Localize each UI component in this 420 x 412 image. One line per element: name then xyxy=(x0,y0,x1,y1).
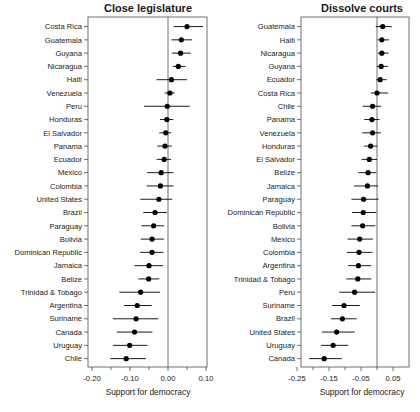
forest-row: Argentina xyxy=(262,261,371,270)
forest-row: Argentina xyxy=(49,301,151,310)
point-estimate xyxy=(334,329,339,334)
forest-row: Ecuador xyxy=(54,155,171,164)
forest-row: Brazil xyxy=(63,208,167,217)
point-estimate xyxy=(361,210,366,215)
forest-row: Dominican Republic xyxy=(14,248,163,257)
forest-row: United States xyxy=(36,195,172,204)
forest-row: Uruguay xyxy=(53,341,147,350)
point-estimate xyxy=(322,356,327,361)
point-estimate xyxy=(176,64,181,69)
category-label: Jamaica xyxy=(54,261,83,270)
x-axis-title: Support for democracy xyxy=(106,387,192,397)
forest-row: Guyana xyxy=(55,49,190,58)
x-tick-label: 0.10 xyxy=(199,374,214,383)
point-estimate xyxy=(149,250,154,255)
point-estimate xyxy=(152,210,157,215)
category-label: Peru xyxy=(279,288,295,297)
category-label: Ecuador xyxy=(54,155,83,164)
plot-frame xyxy=(88,17,207,367)
point-estimate xyxy=(146,263,151,268)
point-estimate xyxy=(365,170,370,175)
forest-row: Nicaragua xyxy=(260,49,388,58)
forest-row: Mexico xyxy=(271,235,373,244)
category-label: Nicaragua xyxy=(47,62,82,71)
forest-row: Canada xyxy=(268,354,341,363)
point-estimate xyxy=(178,51,183,56)
category-label: Dominican Republic xyxy=(14,248,82,257)
point-estimate xyxy=(374,90,379,95)
category-label: United States xyxy=(36,195,82,204)
point-estimate xyxy=(379,64,384,69)
category-label: Chile xyxy=(278,102,295,111)
category-label: Guatemala xyxy=(45,36,83,45)
point-estimate xyxy=(124,356,129,361)
forest-row: Panama xyxy=(54,142,172,151)
category-label: Suriname xyxy=(50,314,83,323)
point-estimate xyxy=(367,157,372,162)
category-label: Brazil xyxy=(63,208,82,217)
point-estimate xyxy=(341,303,346,308)
point-estimate xyxy=(379,51,384,56)
point-estimate xyxy=(368,144,373,149)
category-label: Guyana xyxy=(268,62,295,71)
point-estimate xyxy=(360,223,365,228)
category-label: El Salvador xyxy=(43,129,82,138)
category-label: Canada xyxy=(55,328,82,337)
x-tick-label: 0.05 xyxy=(386,374,401,383)
category-label: Guyana xyxy=(55,49,82,58)
category-label: Mexico xyxy=(271,235,295,244)
category-label: Costa Rica xyxy=(45,22,83,31)
category-label: Ecuador xyxy=(267,75,296,84)
category-label: Honduras xyxy=(262,142,295,151)
category-label: Colombia xyxy=(50,182,83,191)
point-estimate xyxy=(135,303,140,308)
point-estimate xyxy=(378,77,383,82)
forest-row: Trinidad & Tobago xyxy=(234,275,371,284)
forest-row: Peru xyxy=(279,288,375,297)
category-label: Trinidad & Tobago xyxy=(21,288,82,297)
forest-row: Nicaragua xyxy=(47,62,185,71)
point-estimate xyxy=(133,316,138,321)
category-label: Peru xyxy=(66,102,82,111)
category-label: Colombia xyxy=(263,248,296,257)
forest-row: Colombia xyxy=(50,182,173,191)
forest-row: Brazil xyxy=(276,314,357,323)
category-label: El Salvador xyxy=(256,155,295,164)
x-tick-label: -0.05 xyxy=(352,374,369,383)
forest-row: Bolivia xyxy=(60,235,164,244)
category-label: Uruguay xyxy=(53,341,82,350)
point-estimate xyxy=(159,170,164,175)
point-estimate xyxy=(352,290,357,295)
forest-row: Dominican Republic xyxy=(227,208,376,217)
forest-row: Suriname xyxy=(50,314,159,323)
category-label: Panama xyxy=(54,142,83,151)
point-estimate xyxy=(164,117,169,122)
category-label: Paraguay xyxy=(262,195,295,204)
forest-row: Jamaica xyxy=(267,182,378,191)
category-label: Uruguay xyxy=(266,341,295,350)
category-label: Paraguay xyxy=(49,222,82,231)
forest-row: Venezuela xyxy=(260,129,381,138)
forest-row: United States xyxy=(249,328,354,337)
category-label: Bolivia xyxy=(273,222,296,231)
forest-row: Honduras xyxy=(49,115,173,124)
x-tick-label: -0.15 xyxy=(320,374,337,383)
point-estimate xyxy=(158,183,163,188)
x-tick-label: -0.25 xyxy=(288,374,305,383)
point-estimate xyxy=(369,117,374,122)
forest-row: Venezuela xyxy=(47,89,175,98)
point-estimate xyxy=(167,90,172,95)
category-label: Mexico xyxy=(58,168,82,177)
forest-row: Suriname xyxy=(263,301,360,310)
category-label: Guatemala xyxy=(258,22,296,31)
point-estimate xyxy=(163,130,168,135)
category-label: Chile xyxy=(65,354,82,363)
panel-dissolve-courts: Dissolve courtsGuatemalaHaitiNicaraguaGu… xyxy=(227,2,409,397)
category-label: Bolivia xyxy=(60,235,83,244)
point-estimate xyxy=(127,343,132,348)
point-estimate xyxy=(146,276,151,281)
category-label: Trinidad & Tobago xyxy=(234,275,295,284)
forest-row: El Salvador xyxy=(256,155,377,164)
forest-row: Mexico xyxy=(58,168,173,177)
plot-frame xyxy=(301,17,409,367)
